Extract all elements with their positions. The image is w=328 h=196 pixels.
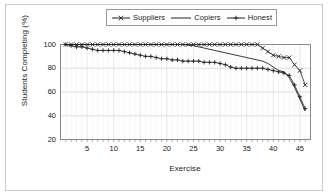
series-honest [64,42,308,110]
x-axis-tick-labels: 51015202530354045 [0,145,328,157]
x-tick-label: 45 [290,145,310,153]
data-series-layer [64,42,308,111]
y-tick-label: 100 [32,41,56,49]
y-tick-label: 60 [32,88,56,96]
x-tick-label: 5 [77,145,97,153]
legend-item-honest: Honest [226,13,272,23]
x-tick-label: 15 [130,145,150,153]
legend-label: Honest [248,14,272,22]
x-tick-label: 30 [210,145,230,153]
x-tick-label: 25 [183,145,203,153]
legend-item-suppliers: Suppliers [111,13,165,23]
y-tick-label: 40 [32,112,56,120]
x-tick-label: 10 [104,145,124,153]
plot-area-wrapper: 20406080100 51015202530354045 Students C… [0,0,328,196]
y-tick-label: 80 [32,64,56,72]
legend-marker-none-icon [170,13,192,23]
legend-label: Copiers [194,14,221,22]
x-tick-label: 40 [263,145,283,153]
series-suppliers [64,42,308,87]
legend-item-copiers: Copiers [170,13,221,23]
y-axis-title: Students Completing (%) [20,8,29,114]
chart-legend: SuppliersCopiersHonest [106,9,277,26]
x-axis-title: Exercise [60,164,310,173]
series-copiers [66,45,305,112]
x-tick-label: 20 [157,145,177,153]
legend-marker-plus-icon [226,13,246,23]
y-axis-tick-labels: 20406080100 [32,0,56,196]
y-tick-label: 20 [32,136,56,144]
legend-label: Suppliers [133,14,165,22]
legend-marker-x-icon [111,13,131,23]
x-tick-label: 35 [237,145,257,153]
chart-figure: 20406080100 51015202530354045 Students C… [0,0,328,196]
